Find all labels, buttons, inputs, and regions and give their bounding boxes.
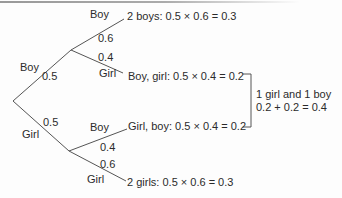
bracket-note-line2: 0.2 + 0.2 = 0.4 [256, 101, 327, 113]
outcome-two-girls: 2 girls: 0.5 × 0.6 = 0.3 [127, 176, 233, 188]
level2-boy-boy-label: Boy [90, 8, 109, 20]
level1-girl-probability: 0.5 [43, 116, 58, 128]
level1-girl-label: Girl [22, 128, 39, 140]
branch-line-root-girl [13, 101, 69, 151]
level1-boy-probability: 0.5 [42, 70, 57, 82]
level2-girl-girl-probability: 0.6 [100, 158, 115, 170]
level1-boy-label: Boy [20, 61, 39, 73]
outcome-boy-girl: Boy, girl: 0.5 × 0.4 = 0.2 [128, 70, 244, 82]
level2-girl-boy-probability: 0.4 [100, 141, 115, 153]
level2-girl-girl-label: Girl [87, 173, 104, 185]
level2-boy-girl-label: Girl [99, 67, 116, 79]
bracket-note-line1: 1 girl and 1 boy [256, 88, 331, 100]
outcome-girl-boy: Girl, boy: 0.5 × 0.4 = 0.2 [128, 120, 246, 132]
probability-tree-diagram: Boy 0.5 0.5 Girl Boy 0.6 2 boys: 0.5 × 0… [0, 0, 342, 198]
level2-boy-girl-probability: 0.4 [98, 51, 113, 63]
outcome-two-boys: 2 boys: 0.5 × 0.6 = 0.3 [127, 10, 236, 22]
level2-boy-boy-probability: 0.6 [98, 32, 113, 44]
level2-girl-boy-label: Boy [90, 121, 109, 133]
